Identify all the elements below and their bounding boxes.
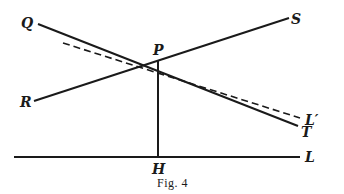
line-qt	[38, 24, 298, 126]
label-r: R	[19, 94, 32, 110]
figure-4: Q P S R T L′ H L Fig. 4	[0, 0, 344, 194]
label-l: L	[304, 149, 315, 165]
label-l-prime: L′	[304, 112, 319, 128]
label-p: P	[152, 42, 164, 58]
label-s: S	[291, 11, 301, 27]
figure-caption: Fig. 4	[157, 176, 188, 190]
diagram-canvas: Q P S R T L′ H L Fig. 4	[0, 0, 344, 194]
label-h: H	[151, 161, 166, 177]
label-q: Q	[21, 15, 33, 31]
line-rs	[34, 18, 289, 101]
